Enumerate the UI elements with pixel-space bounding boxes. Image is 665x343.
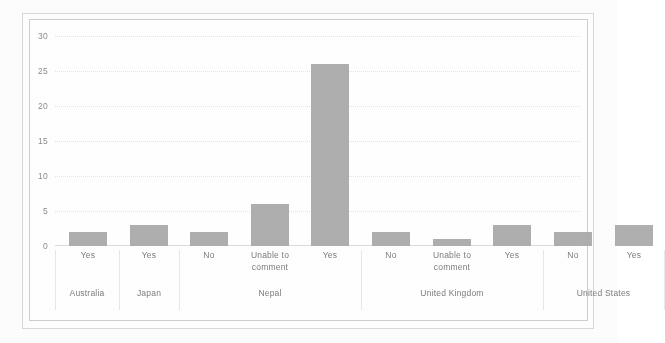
cat-label-4: Yes [300, 250, 360, 262]
y-tick-0: 0 [22, 241, 48, 251]
x-axis-group-labels: Australia Japan Nepal United Kingdom Uni… [55, 288, 580, 314]
group-label-nepal: Nepal [179, 288, 361, 298]
cat-label-6: Unable to comment [420, 250, 484, 273]
bar-nepal-yes[interactable] [311, 64, 349, 246]
bar-series [55, 36, 580, 246]
y-tick-10: 10 [22, 171, 48, 181]
cat-label-3: Unable to comment [238, 250, 302, 273]
bar-nepal-no[interactable] [190, 232, 228, 246]
group-separator-0 [55, 250, 56, 310]
y-tick-20: 20 [22, 101, 48, 111]
y-tick-30: 30 [22, 31, 48, 41]
cat-label-1: Yes [119, 250, 179, 262]
cat-label-2: No [179, 250, 239, 262]
bar-uk-no[interactable] [372, 232, 410, 246]
cat-label-5: No [361, 250, 421, 262]
group-separator-2 [179, 250, 180, 310]
bar-uk-unable[interactable] [433, 239, 471, 246]
group-label-united-states: United States [543, 288, 664, 298]
bar-japan-yes[interactable] [130, 225, 168, 246]
group-label-united-kingdom: United Kingdom [361, 288, 543, 298]
x-axis-category-labels: Yes Yes No Unable to comment Yes No Unab… [55, 250, 580, 286]
y-tick-25: 25 [22, 66, 48, 76]
y-axis-labels: 30 25 20 15 10 5 0 [22, 36, 48, 246]
y-tick-15: 15 [22, 136, 48, 146]
cat-label-7: Yes [482, 250, 542, 262]
y-tick-5: 5 [22, 206, 48, 216]
bar-australia-yes[interactable] [69, 232, 107, 246]
bar-us-no[interactable] [554, 232, 592, 246]
bar-uk-yes[interactable] [493, 225, 531, 246]
bar-nepal-unable[interactable] [251, 204, 289, 246]
cat-label-0: Yes [58, 250, 118, 262]
cat-label-8: No [543, 250, 603, 262]
group-separator-1 [119, 250, 120, 310]
group-label-japan: Japan [119, 288, 179, 298]
group-label-australia: Australia [55, 288, 119, 298]
group-separator-3 [361, 250, 362, 310]
bar-us-yes[interactable] [615, 225, 653, 246]
group-separator-4 [543, 250, 544, 310]
cat-label-9: Yes [604, 250, 664, 262]
